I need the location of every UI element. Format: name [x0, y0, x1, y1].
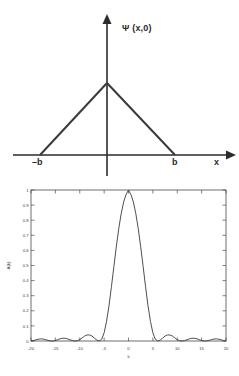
- x-axis-group: [13, 151, 236, 160]
- triangle-left-edge: [40, 83, 107, 155]
- y-tick-label: 1: [26, 188, 29, 193]
- y-axis-title: A(k): [6, 261, 11, 270]
- x-tick-label: -10: [77, 346, 84, 351]
- x-tick-label-group: -20-15-10-505101520: [28, 346, 229, 351]
- x-tick-label: 5: [152, 346, 155, 351]
- y-axis-group: [103, 14, 112, 176]
- psi-axis-label: Ψ (x,0): [122, 24, 152, 33]
- x-tick-group: [31, 190, 226, 341]
- amplitude-plot-svg: -20-15-10-505101520 00.10.20.30.40.50.60…: [0, 186, 239, 376]
- plot-frame: [31, 190, 226, 341]
- y-tick-label: 0.5: [23, 263, 29, 268]
- x-axis-title: k: [127, 354, 130, 359]
- x-axis-arrowhead-icon: [226, 151, 236, 160]
- y-tick-label: 0.9: [23, 203, 29, 208]
- amplitude-plot-panel: -20-15-10-505101520 00.10.20.30.40.50.60…: [0, 186, 239, 376]
- y-tick-label: 0.1: [23, 324, 29, 329]
- x-tick-label: 0: [127, 346, 130, 351]
- x-axis-label: x: [214, 158, 219, 167]
- wavefunction-diagram-panel: Ψ (x,0) –b b x: [0, 0, 239, 186]
- x-tick-label: -15: [52, 346, 59, 351]
- triangle-right-edge: [107, 83, 175, 155]
- y-tick-label: 0: [26, 339, 29, 344]
- x-tick-label: -20: [28, 346, 35, 351]
- y-axis-arrowhead-icon: [103, 14, 112, 24]
- x-tick-label: 15: [199, 346, 204, 351]
- y-tick-group: [31, 190, 226, 341]
- y-tick-label-group: 00.10.20.30.40.50.60.70.80.91: [23, 188, 29, 344]
- figure-root: Ψ (x,0) –b b x -20-15-10-505101520 00.10…: [0, 0, 239, 376]
- right-base-label: b: [172, 158, 178, 167]
- x-tick-label: -5: [102, 346, 106, 351]
- y-tick-label: 0.4: [23, 278, 29, 283]
- x-tick-label: 20: [224, 346, 229, 351]
- x-tick-label: 10: [175, 346, 180, 351]
- y-tick-label: 0.6: [23, 248, 29, 253]
- y-tick-label: 0.8: [23, 218, 29, 223]
- y-tick-label: 0.7: [23, 233, 29, 238]
- left-base-label: –b: [32, 158, 43, 167]
- y-tick-label: 0.2: [23, 308, 29, 313]
- y-tick-label: 0.3: [23, 293, 29, 298]
- data-series-line: [31, 190, 226, 341]
